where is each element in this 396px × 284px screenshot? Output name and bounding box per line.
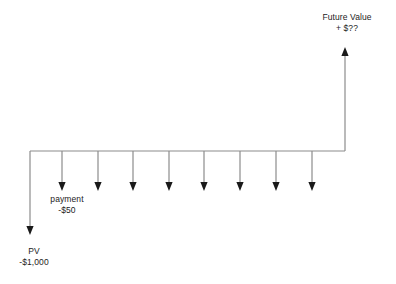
- cash-flow-timeline-diagram: Future Value + $?? payment -$50 PV -$1,0…: [0, 0, 396, 284]
- payment-arrow: [94, 151, 101, 191]
- payment-arrow: [58, 151, 65, 191]
- future-value-arrowhead: [341, 47, 348, 56]
- present-value-label: PV -$1,000: [6, 246, 62, 268]
- present-value-amount: -$1,000: [6, 257, 62, 268]
- future-value-amount: + $??: [316, 23, 378, 34]
- payment-arrow: [129, 151, 136, 191]
- payment-arrowhead: [129, 182, 136, 191]
- payment-amount: -$50: [40, 205, 94, 216]
- present-value-arrow: [26, 151, 33, 235]
- payment-arrow: [308, 151, 315, 191]
- payment-label-text: payment: [50, 194, 83, 204]
- present-value-arrowhead: [26, 226, 33, 235]
- payment-arrowhead: [308, 182, 315, 191]
- payment-arrowhead: [58, 182, 65, 191]
- payment-arrowhead: [272, 182, 279, 191]
- payment-label: payment -$50: [40, 194, 94, 216]
- payment-arrow-group: [58, 151, 315, 191]
- payment-arrowhead: [94, 182, 101, 191]
- future-value-label-text: Future Value: [322, 12, 371, 22]
- present-value-label-text: PV: [28, 246, 40, 256]
- future-value-arrow: [341, 47, 348, 151]
- payment-arrowhead: [200, 182, 207, 191]
- payment-arrow: [200, 151, 207, 191]
- payment-arrow: [236, 151, 243, 191]
- payment-arrowhead: [236, 182, 243, 191]
- timeline-graphic: [0, 0, 396, 284]
- future-value-label: Future Value + $??: [316, 12, 378, 34]
- payment-arrow: [272, 151, 279, 191]
- payment-arrowhead: [165, 182, 172, 191]
- payment-arrow: [165, 151, 172, 191]
